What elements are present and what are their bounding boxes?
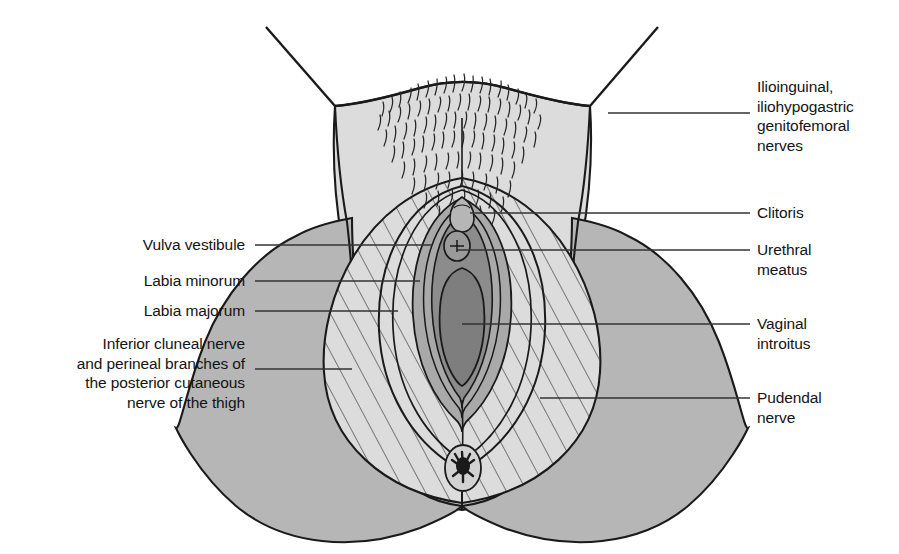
label-vulva-vestibule: Vulva vestibule: [143, 235, 245, 255]
label-labia-minorum: Labia minorum: [144, 271, 245, 291]
right-hip-diagonal: [590, 27, 658, 106]
label-ilioinguinal-nerves: Ilioinguinal, iliohypogastric genitofemo…: [757, 77, 854, 155]
label-vaginal-introitus: Vaginal introitus: [757, 314, 810, 353]
label-clitoris: Clitoris: [757, 203, 804, 223]
label-urethral-meatus: Urethral meatus: [757, 240, 811, 279]
label-pudendal-nerve: Pudendal nerve: [757, 388, 822, 427]
anatomy-figure: Ilioinguinal, iliohypogastric genitofemo…: [0, 0, 899, 554]
left-hip-diagonal: [266, 27, 335, 106]
label-inferior-cluneal-nerve: Inferior cluneal nerve and perineal bran…: [77, 334, 245, 412]
label-labia-majorum: Labia majorum: [144, 301, 245, 321]
anus: [445, 445, 481, 491]
urethral-meatus: [444, 231, 470, 261]
